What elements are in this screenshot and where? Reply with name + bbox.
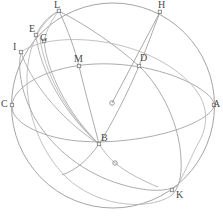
sphere-diagram-figure: L H E G I M D C A B K	[0, 0, 223, 218]
point-label-E: E	[29, 24, 35, 34]
point-marker-I	[19, 50, 22, 53]
point-marker-C	[10, 103, 13, 106]
point-label-D: D	[140, 53, 147, 63]
point-label-A: A	[213, 99, 220, 109]
arc-g-to-b	[44, 41, 99, 144]
point-marker-K	[170, 188, 173, 191]
point-label-H: H	[158, 0, 165, 10]
point-label-C: C	[1, 99, 8, 109]
point-label-L: L	[54, 0, 60, 10]
arc-eg-inner-to-b	[40, 38, 99, 144]
point-label-M: M	[74, 54, 83, 64]
point-label-I: I	[13, 42, 16, 52]
point-label-G: G	[40, 33, 47, 43]
arc-b-to-lower-node	[99, 144, 158, 187]
great-circle-h-d-b	[62, 12, 160, 175]
great-circle-l-d-k-back	[27, 11, 172, 204]
point-marker-D	[137, 64, 140, 67]
point-marker-H	[158, 10, 161, 13]
point-label-B: B	[101, 133, 108, 143]
radius-line-center-to-h	[112, 12, 160, 103]
great-circle-i-b-k	[20, 52, 177, 190]
point-label-K: K	[176, 190, 183, 200]
point-marker-M	[77, 64, 80, 67]
